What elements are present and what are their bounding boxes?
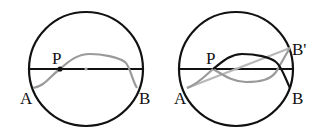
right-label-b: B <box>292 89 303 108</box>
right-label-b-prime: B' <box>292 40 306 59</box>
right-label-a: A <box>174 89 187 108</box>
left-label-a: A <box>20 89 33 108</box>
right-figure: P A B B' <box>174 12 306 126</box>
right-label-p: P <box>206 49 215 68</box>
right-center-dot <box>234 67 237 70</box>
left-figure: P A B <box>20 12 150 126</box>
left-label-b: B <box>139 89 150 108</box>
diagram-canvas: P A B P A B B' <box>0 0 325 133</box>
left-gray-curve <box>33 54 137 88</box>
left-center-dot <box>84 67 87 70</box>
left-label-p: P <box>52 49 61 68</box>
